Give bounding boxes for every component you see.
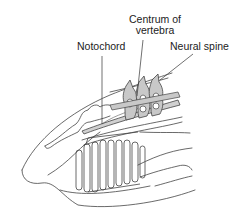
label-centrum-line2: vertebra	[124, 25, 186, 36]
body-outline-dorsal	[22, 73, 172, 170]
gill-slits	[76, 132, 145, 192]
label-notochord: Notochord	[77, 41, 125, 52]
leader-neural-spine	[160, 54, 193, 80]
body-outline-ventral	[22, 170, 195, 207]
anatomy-diagram	[0, 0, 242, 215]
label-centrum-of-vertebra: Centrum of vertebra	[124, 14, 186, 36]
label-neural-spine: Neural spine	[170, 41, 229, 52]
